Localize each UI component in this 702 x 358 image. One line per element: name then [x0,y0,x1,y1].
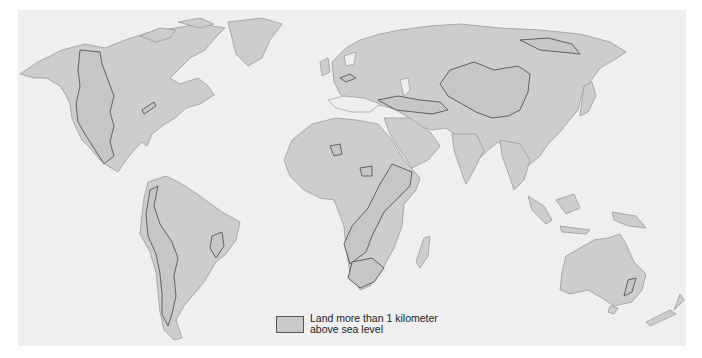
madagascar [416,236,430,268]
legend: Land more than 1 kilometer above sea lev… [276,313,438,335]
legend-label: Land more than 1 kilometer above sea lev… [310,313,438,335]
tasmania [608,306,618,314]
legend-swatch [276,316,304,333]
world-map [0,0,702,358]
greenland [228,18,282,66]
british-isles [320,58,330,76]
legend-line-2: above sea level [310,324,438,335]
indonesia [528,194,646,234]
new-zealand [646,294,684,326]
india [452,134,484,184]
australia [560,234,646,306]
north-america [20,24,225,172]
